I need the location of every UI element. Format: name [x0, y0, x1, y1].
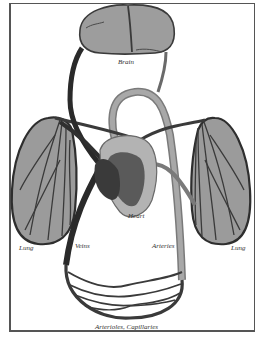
- arteries-label: Arteries: [152, 242, 175, 250]
- brain-organ: [80, 5, 175, 54]
- right-lung-organ: [191, 118, 250, 244]
- brain-label: Brain: [118, 58, 134, 66]
- capillaries-label: Arterioles, Capillaries: [95, 323, 158, 331]
- veins-label: Veins: [75, 242, 90, 250]
- capillary-network: [66, 265, 182, 318]
- left-lung-organ: [12, 117, 77, 244]
- circulatory-diagram: [0, 0, 261, 338]
- right-lung-label: Lung: [231, 244, 245, 252]
- left-lung-label: Lung: [19, 244, 33, 252]
- heart-organ: [94, 136, 156, 217]
- heart-label: Heart: [128, 212, 144, 220]
